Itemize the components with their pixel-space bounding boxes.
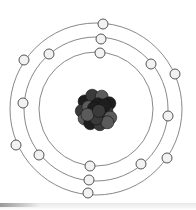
electron bbox=[34, 150, 44, 160]
electron bbox=[96, 34, 106, 44]
electron bbox=[44, 49, 54, 59]
electron bbox=[170, 69, 180, 79]
electron bbox=[11, 140, 21, 150]
electron bbox=[18, 98, 28, 108]
electron bbox=[85, 161, 95, 171]
nucleon bbox=[101, 116, 114, 129]
electron bbox=[19, 55, 29, 65]
nucleon bbox=[92, 104, 105, 117]
electron bbox=[98, 19, 108, 29]
bottom-shadow-edge bbox=[0, 203, 40, 207]
electron bbox=[163, 111, 173, 121]
electron bbox=[136, 159, 146, 169]
electron bbox=[162, 153, 172, 163]
electron bbox=[83, 188, 93, 198]
electron bbox=[95, 48, 105, 58]
nucleus bbox=[75, 89, 117, 131]
electron bbox=[146, 59, 156, 69]
atom-diagram bbox=[0, 0, 196, 210]
nucleon bbox=[81, 108, 94, 121]
electron bbox=[84, 175, 94, 185]
